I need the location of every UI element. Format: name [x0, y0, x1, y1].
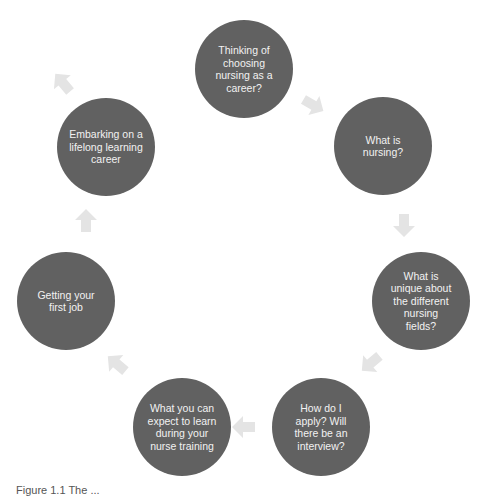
arrow-down-icon	[391, 212, 417, 238]
node-label: How do I apply? Will there be an intervi…	[287, 402, 355, 452]
node-label: What is nursing?	[346, 134, 420, 159]
node-label: Getting your first job	[35, 289, 97, 314]
arrow-up-left-icon	[45, 65, 82, 102]
figure-caption: Figure 1.1 The ...	[16, 484, 100, 496]
node-label: What is unique about the different nursi…	[388, 270, 454, 333]
arrow-right-icon	[295, 87, 331, 123]
node-nursing-fields: What is unique about the different nursi…	[372, 252, 470, 350]
node-lifelong-learning: Embarking on a lifelong learning career	[57, 98, 155, 196]
arrow-up-left-icon	[99, 346, 136, 383]
arrow-up-icon	[73, 208, 99, 234]
node-how-to-apply: How do I apply? Will there be an intervi…	[272, 378, 370, 476]
node-label: Thinking of choosing nursing as a career…	[207, 44, 281, 94]
node-first-job: Getting your first job	[17, 252, 115, 350]
node-what-is-nursing: What is nursing?	[334, 97, 432, 195]
node-thinking-of-nursing: Thinking of choosing nursing as a career…	[195, 20, 293, 118]
node-label: Embarking on a lifelong learning career	[67, 128, 145, 166]
node-label: What you can expect to learn during your…	[147, 402, 217, 452]
arrow-down-left-icon	[353, 345, 390, 382]
arrow-left-icon	[231, 414, 257, 440]
node-nurse-training: What you can expect to learn during your…	[133, 378, 231, 476]
